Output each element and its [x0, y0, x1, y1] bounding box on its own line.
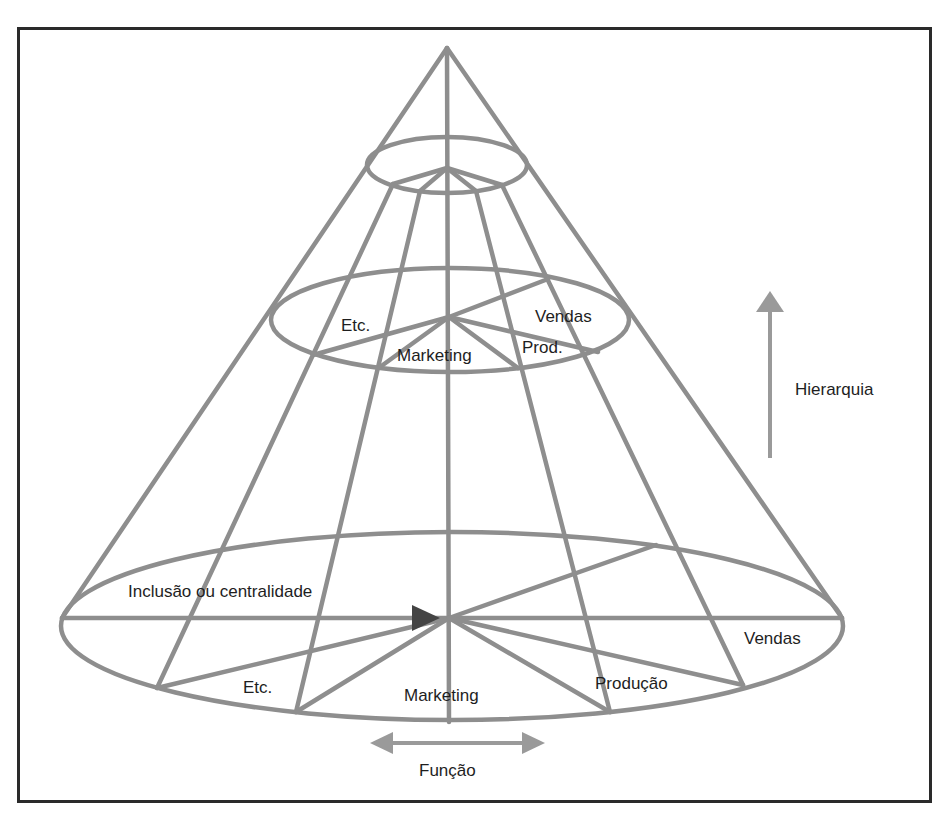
base-label-marketing: Marketing [404, 686, 479, 705]
double-arrow-horizontal-icon [370, 732, 545, 754]
base-label-vendas: Vendas [744, 629, 801, 648]
axis-label-funcao: Função [419, 761, 476, 780]
base-label-inclusao: Inclusão ou centralidade [128, 582, 312, 601]
arrow-up-icon [756, 291, 784, 458]
base-label-etc: Etc. [243, 678, 272, 697]
axis-label-hierarquia: Hierarquia [795, 380, 874, 399]
cone-diagram: Etc. Vendas Marketing Prod. Inclusão ou … [0, 0, 948, 816]
base-label-producao: Produção [595, 674, 668, 693]
middle-label-marketing: Marketing [397, 346, 472, 365]
middle-label-vendas: Vendas [535, 307, 592, 326]
middle-label-prod: Prod. [522, 338, 563, 357]
middle-label-etc: Etc. [341, 316, 370, 335]
